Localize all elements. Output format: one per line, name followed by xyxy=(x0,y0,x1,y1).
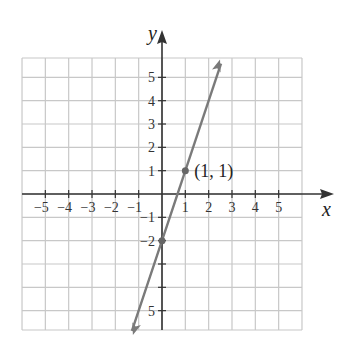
data-point xyxy=(159,237,166,244)
y-axis-arrow-icon xyxy=(157,30,167,44)
y-axis-label: y xyxy=(146,22,157,45)
x-tick-label: −5 xyxy=(34,200,49,215)
y-tick-label: 1 xyxy=(148,164,155,179)
x-tick-label: 3 xyxy=(228,200,235,215)
function-line xyxy=(132,64,221,331)
y-tick-label: 5 xyxy=(148,304,155,319)
y-tick-label: −1 xyxy=(140,210,155,225)
y-tick-label: 5 xyxy=(148,70,155,85)
x-tick-label: 5 xyxy=(275,200,282,215)
x-tick-label: −4 xyxy=(57,200,72,215)
x-tick-label: −3 xyxy=(81,200,96,215)
coordinate-plane: −5−4−3−2−11234554321−1−25 (1, 1)yx xyxy=(0,0,355,348)
line-arrow-icon xyxy=(132,322,141,335)
y-tick-label: 2 xyxy=(148,140,155,155)
y-tick-label: 4 xyxy=(148,94,155,109)
x-tick-label: 4 xyxy=(252,200,259,215)
x-axis-label: x xyxy=(321,198,331,220)
x-tick-label: 1 xyxy=(182,200,189,215)
labels: (1, 1)yx xyxy=(146,22,331,220)
data-point xyxy=(182,167,189,174)
x-tick-label: −2 xyxy=(104,200,119,215)
y-tick-label: −2 xyxy=(140,234,155,249)
y-tick-label: 3 xyxy=(148,117,155,132)
x-tick-label: 2 xyxy=(205,200,212,215)
line-arrow-icon xyxy=(212,60,221,73)
point-annotation: (1, 1) xyxy=(194,161,233,182)
